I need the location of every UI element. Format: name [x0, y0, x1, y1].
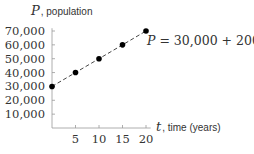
x-tick-label: 10: [92, 132, 107, 146]
data-point: [73, 70, 79, 76]
data-series: [49, 28, 149, 89]
x-tick-label: 20: [139, 132, 154, 146]
data-point: [49, 84, 55, 90]
y-tick-label: 50,000: [5, 52, 45, 66]
equation-annotation: P = 30,000 + 2000t: [146, 33, 254, 48]
y-axis-label: P, population: [30, 3, 92, 18]
y-tick-label: 40,000: [5, 66, 45, 80]
y-tick-label: 30,000: [5, 79, 45, 93]
y-tick-label: 60,000: [5, 38, 45, 52]
data-point: [96, 56, 102, 62]
data-point: [120, 42, 126, 48]
y-tick-label: 20,000: [5, 93, 45, 107]
y-tick-label: 70,000: [5, 24, 45, 38]
x-axis-label: t, time (years): [156, 119, 221, 134]
x-tick-label: 5: [72, 132, 79, 146]
y-tick-label: 10,000: [5, 107, 45, 121]
x-tick-label: 15: [115, 132, 130, 146]
labels: P, populationt, time (years)P = 30,000 +…: [30, 3, 254, 134]
population-chart: 510152010,00020,00030,00040,00050,00060,…: [0, 0, 254, 154]
